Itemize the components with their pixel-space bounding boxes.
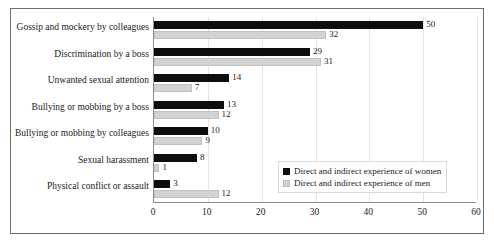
bar-group: Gossip and mockery by colleagues5032 (154, 17, 476, 44)
bar-men (154, 190, 219, 198)
bar-men (154, 111, 219, 119)
bar-value-label: 9 (205, 136, 210, 145)
bar-women (154, 180, 170, 188)
bar-men (154, 137, 202, 145)
black-square-swatch (283, 168, 290, 175)
bar-women (154, 21, 423, 29)
bar-value-label: 8 (200, 153, 205, 162)
bar-men (154, 31, 326, 39)
bar-group: Discrimination by a boss2931 (154, 44, 476, 71)
category-label: Unwanted sexual attention (0, 74, 149, 86)
legend-item-women: Direct and indirect experience of women (283, 165, 441, 177)
legend-label-men: Direct and indirect experience of men (294, 178, 430, 189)
x-tick-label-10: 10 (202, 207, 212, 218)
bar-value-label: 32 (329, 30, 338, 39)
category-label: Discrimination by a boss (0, 48, 149, 60)
x-tick-label-60: 60 (471, 207, 481, 218)
x-tick-label-0: 0 (151, 207, 156, 218)
x-tick-label-40: 40 (364, 207, 374, 218)
category-label: Bullying or mobbing by a boss (0, 101, 149, 113)
legend-item-men: Direct and indirect experience of men (283, 177, 441, 189)
bar-value-label: 12 (222, 110, 231, 119)
category-label: Sexual harassment (0, 154, 149, 166)
chart-legend: Direct and indirect experience of women … (278, 161, 447, 193)
bar-value-label: 14 (232, 73, 241, 82)
bar-men (154, 84, 192, 92)
bar-men (154, 164, 159, 172)
x-tick-label-50: 50 (417, 207, 427, 218)
category-label: Bullying or mobbing by colleagues (0, 127, 149, 139)
bar-value-label: 7 (195, 83, 200, 92)
x-tick-label-20: 20 (256, 207, 266, 218)
bar-value-label: 50 (426, 20, 435, 29)
bar-value-label: 10 (211, 126, 220, 135)
bar-group: Unwanted sexual attention147 (154, 70, 476, 97)
bar-value-label: 29 (313, 47, 322, 56)
bar-value-label: 31 (324, 57, 333, 66)
bar-group: Bullying or mobbing by colleagues109 (154, 123, 476, 150)
gray-square-swatch (283, 180, 290, 187)
bar-women (154, 154, 197, 162)
bar-men (154, 58, 321, 66)
bar-value-label: 1 (162, 163, 167, 172)
bar-women (154, 48, 310, 56)
legend-label-women: Direct and indirect experience of women (294, 166, 441, 177)
x-axis: 0102030405060 (153, 203, 476, 223)
chart-frame: Gossip and mockery by colleagues5032Disc… (10, 8, 484, 234)
category-label: Gossip and mockery by colleagues (0, 21, 149, 33)
bar-women (154, 127, 208, 135)
bar-value-label: 13 (227, 100, 236, 109)
bar-women (154, 101, 224, 109)
gridline-60 (477, 17, 478, 202)
bar-women (154, 74, 229, 82)
x-tick-label-30: 30 (310, 207, 320, 218)
category-label: Physical conflict or assault (0, 180, 149, 192)
bar-value-label: 3 (173, 179, 178, 188)
bar-value-label: 12 (222, 189, 231, 198)
bar-group: Bullying or mobbing by a boss1312 (154, 97, 476, 124)
